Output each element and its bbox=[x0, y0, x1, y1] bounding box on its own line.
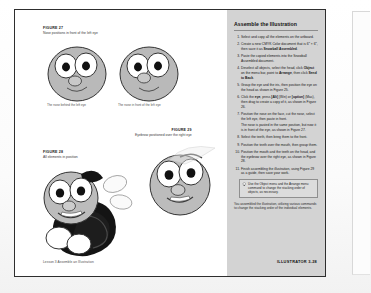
step-text: . bbox=[253, 76, 254, 80]
step-text: Position the teeth over the mouth, then … bbox=[241, 143, 317, 147]
assembly-steps-list: 1.Select and copy all the elements on th… bbox=[234, 35, 318, 176]
figure-27-label: FIGURE 27 bbox=[43, 26, 98, 30]
assembly-step: 10.Position the mouth and the teeth on t… bbox=[234, 150, 318, 164]
sidebar-title: Assemble the Illustration bbox=[234, 21, 318, 31]
step-text: Position the nose on the face, cut the n… bbox=[241, 112, 315, 121]
step-number: 1. bbox=[234, 35, 240, 40]
step-text: , press bbox=[260, 95, 271, 99]
snowball-head-nose-behind bbox=[39, 38, 115, 104]
step-number: 11. bbox=[234, 167, 240, 172]
figure-28-caption: All elements in position bbox=[43, 155, 78, 159]
step-text: Finish assembling the illustration, usin… bbox=[241, 167, 314, 176]
step-text: (Win) or bbox=[278, 95, 292, 99]
step-number: 3. bbox=[234, 54, 240, 59]
assembly-step: 8.Select the teeth, then bring them to t… bbox=[234, 135, 318, 140]
assembly-step: 2.Create a new CMYK Color document that … bbox=[234, 42, 318, 51]
step-number: 2. bbox=[234, 42, 240, 47]
step-text: , then click bbox=[292, 71, 309, 75]
scanned-page-image: FIGURE 27 Nose positions in front of the… bbox=[0, 0, 371, 293]
step-text: Position the mouth and the teeth on the … bbox=[241, 150, 316, 163]
step-number: 5. bbox=[234, 83, 240, 88]
assembly-step: 1.Select and copy all the elements on th… bbox=[234, 35, 318, 40]
figure-28-caption-block: FIGURE 28 All elements in position bbox=[43, 150, 78, 160]
sidebar-closing-text: You assembled the illustration, utilizin… bbox=[234, 202, 318, 211]
figure-27-caption: Nose positions in front of the left eye bbox=[43, 31, 98, 35]
instructions-sidebar: Assemble the Illustration 1.Select and c… bbox=[227, 10, 325, 276]
step-emphasis: [Alt] bbox=[271, 95, 278, 99]
step-number: 4. bbox=[234, 66, 240, 71]
figure-29-caption: Eyebrow positioned over the right eye bbox=[135, 133, 192, 137]
sidebar-content: Assemble the Illustration 1.Select and c… bbox=[234, 21, 318, 211]
snowball-head-nose-in-front bbox=[111, 38, 187, 104]
assembly-step: 4.Deselect all objects, select the head,… bbox=[234, 66, 318, 80]
assembly-step: 6.Click the eye, press [Alt] (Win) or [o… bbox=[234, 95, 318, 109]
figure-29-caption-block: FIGURE 29 Eyebrow positioned over the ri… bbox=[135, 128, 192, 138]
step-text: Click the bbox=[241, 95, 255, 99]
partial-shape-sketch bbox=[165, 138, 221, 168]
lightbulb-icon bbox=[242, 182, 247, 187]
figure-29-label: FIGURE 29 bbox=[135, 128, 192, 132]
textbook-page: FIGURE 27 Nose positions in front of the… bbox=[14, 9, 326, 277]
figure-27-sub-caption-left: The nose behind the left eye bbox=[47, 103, 99, 107]
step-text: . bbox=[297, 47, 298, 51]
step-emphasis: [option] bbox=[292, 95, 304, 99]
page-footer-right: ILLUSTRATOR 3-28 bbox=[277, 259, 317, 264]
step-text: Select the teeth, then bring them to the… bbox=[241, 135, 307, 139]
step-number: 6. bbox=[234, 95, 240, 100]
step-number: 8. bbox=[234, 135, 240, 140]
step-text: Select and copy all the elements on the … bbox=[241, 35, 314, 39]
tip-callout: Use the Object menu and the Arrange menu… bbox=[239, 179, 318, 198]
assembly-step: 7.Position the nose on the face, cut the… bbox=[234, 112, 318, 133]
bee-character-illustration bbox=[29, 162, 137, 262]
assembly-step: 9.Position the teeth over the mouth, the… bbox=[234, 143, 318, 148]
page-footer-left: Lesson 3 Assemble an Illustration bbox=[43, 260, 94, 264]
adjacent-page-edge bbox=[352, 11, 370, 275]
figure-27-sub-caption-right: The nose in front of the left eye bbox=[118, 103, 170, 107]
step-text: Deselect all objects, select the head, c… bbox=[241, 66, 304, 70]
left-figure-column: FIGURE 27 Nose positions in front of the… bbox=[15, 10, 226, 276]
step-text: The nose is pasted in the same position,… bbox=[241, 123, 318, 132]
assembly-step: 5.Group the eye and the iris, then posit… bbox=[234, 83, 318, 92]
step-number: 9. bbox=[234, 143, 240, 148]
step-emphasis: Arrange bbox=[279, 71, 292, 75]
step-emphasis: Snowball Assembled bbox=[264, 47, 297, 51]
step-text: on the menu bar, point to bbox=[241, 71, 279, 75]
step-number: 10. bbox=[234, 150, 240, 155]
assembly-step: 11.Finish assembling the illustration, u… bbox=[234, 167, 318, 176]
assembly-step: 3.Paste the copied elements into the Sno… bbox=[234, 54, 318, 63]
tip-text: Use the Object menu and the Arrange menu… bbox=[248, 182, 309, 195]
step-emphasis: Object bbox=[304, 66, 314, 70]
figure-28-label: FIGURE 28 bbox=[43, 150, 78, 154]
step-text: Paste the copied elements into the Snowb… bbox=[241, 54, 307, 63]
step-text: Group the eye and the iris, then positio… bbox=[241, 83, 317, 92]
figure-27-caption-block: FIGURE 27 Nose positions in front of the… bbox=[43, 26, 98, 36]
step-number: 7. bbox=[234, 112, 240, 117]
